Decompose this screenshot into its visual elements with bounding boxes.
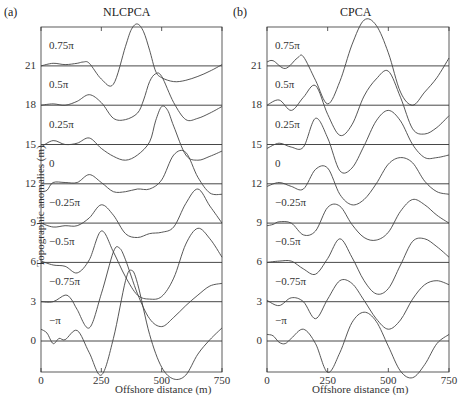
y-tick-label: 21 <box>25 59 36 71</box>
y-tick-label: 12 <box>251 177 262 189</box>
y-tick-label: 15 <box>251 138 262 150</box>
series-line <box>267 312 449 378</box>
series-line <box>41 24 222 86</box>
phase-label: −0.5π <box>49 235 75 247</box>
phase-label: 0.75π <box>49 39 74 51</box>
x-tick-label: 750 <box>214 374 231 386</box>
phase-label: 0 <box>49 157 55 169</box>
series-line <box>41 150 222 194</box>
phase-label: −π <box>275 314 287 326</box>
x-tick-label: 500 <box>153 374 170 386</box>
y-tick-label: 3 <box>257 295 263 307</box>
x-tick-label: 250 <box>319 374 336 386</box>
y-tick-label: 9 <box>257 216 263 228</box>
x-tick-label: 0 <box>264 374 270 386</box>
x-tick-label: 750 <box>441 374 458 386</box>
y-tick-label: 3 <box>31 295 37 307</box>
y-tick-label: 12 <box>25 177 36 189</box>
phase-label: 0.25π <box>275 118 300 130</box>
y-tick-label: 15 <box>25 138 36 150</box>
x-tick-label: 500 <box>380 374 397 386</box>
phase-label: −0.25π <box>49 196 80 208</box>
x-tick-label: 250 <box>93 374 110 386</box>
phase-label: −0.5π <box>275 235 301 247</box>
y-tick-label: 0 <box>31 334 37 346</box>
phase-label: −π <box>49 314 61 326</box>
y-tick-label: 9 <box>31 216 37 228</box>
phase-label: 0 <box>275 157 281 169</box>
y-tick-label: 18 <box>25 98 36 110</box>
phase-label: −0.25π <box>275 196 306 208</box>
series-line <box>267 280 449 330</box>
phase-label: 0.25π <box>49 118 74 130</box>
series-line <box>267 19 449 105</box>
phase-label: 0.5π <box>49 78 68 90</box>
y-tick-label: 6 <box>31 255 37 267</box>
phase-label: 0.5π <box>275 78 294 90</box>
phase-label: −0.75π <box>49 275 80 287</box>
phase-label: −0.75π <box>275 275 306 287</box>
x-tick-label: 0 <box>38 374 44 386</box>
y-tick-label: 0 <box>257 334 263 346</box>
y-tick-label: 18 <box>251 98 262 110</box>
series-line <box>41 106 222 160</box>
y-tick-label: 21 <box>251 59 262 71</box>
phase-label: 0.75π <box>275 39 300 51</box>
y-tick-label: 6 <box>257 255 263 267</box>
